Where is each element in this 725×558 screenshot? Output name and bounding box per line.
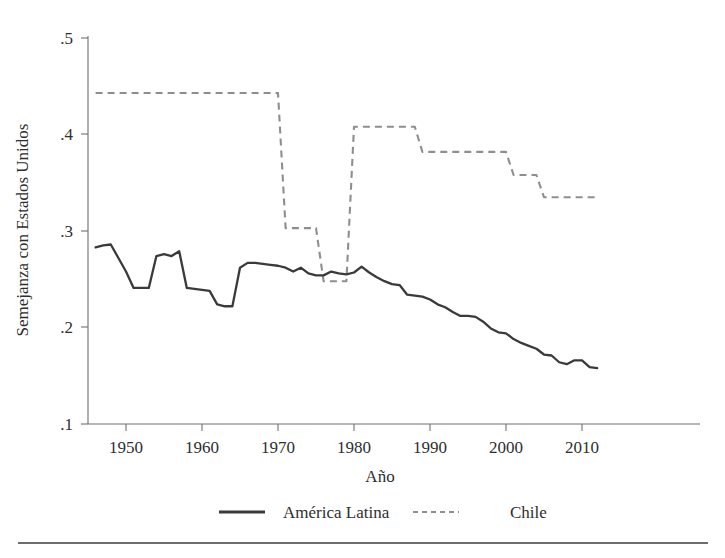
series-line-chile (96, 93, 598, 281)
y-axis-ticks (81, 38, 88, 424)
x-axis-tick-labels: 1950 1960 1970 1980 1990 2000 2010 (109, 438, 599, 457)
y-tick-label: .2 (60, 318, 73, 337)
y-tick-label: .3 (60, 222, 73, 241)
x-axis-ticks (126, 424, 582, 431)
y-tick-label: .5 (60, 29, 73, 48)
x-axis-title: Año (365, 467, 394, 486)
series-line-america-latina (96, 245, 598, 369)
legend-label-america-latina: América Latina (283, 503, 390, 522)
x-tick-label: 1980 (337, 438, 371, 457)
y-axis-title: Semejanza con Estados Unidos (13, 124, 32, 337)
x-tick-label: 2000 (489, 438, 523, 457)
x-tick-label: 1950 (109, 438, 143, 457)
x-tick-label: 1970 (261, 438, 295, 457)
y-axis-tick-labels: .5 .4 .3 .2 .1 (60, 29, 73, 434)
x-tick-label: 1990 (413, 438, 447, 457)
y-tick-label: .1 (60, 415, 73, 434)
line-chart: .5 .4 .3 .2 .1 1950 1960 1970 1980 1990 … (0, 0, 725, 558)
y-tick-label: .4 (60, 125, 73, 144)
x-tick-label: 2010 (565, 438, 599, 457)
legend: América Latina Chile (219, 503, 547, 522)
legend-label-chile: Chile (510, 503, 547, 522)
x-tick-label: 1960 (185, 438, 219, 457)
figure-container: .5 .4 .3 .2 .1 1950 1960 1970 1980 1990 … (0, 0, 725, 558)
